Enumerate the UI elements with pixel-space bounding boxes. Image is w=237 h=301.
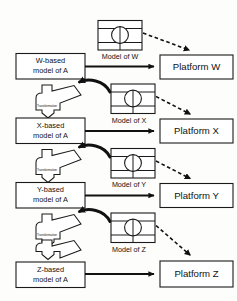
model-caption-y: Model of Y — [112, 180, 146, 189]
platform-box-y[interactable]: Platform Y — [160, 184, 233, 208]
source-model-box-z[interactable]: Z-based model of A — [16, 262, 85, 288]
source-box-y-line1: Y-based — [37, 185, 64, 194]
platform-label-y: Platform Y — [174, 190, 219, 201]
source-box-x-line1: X-based — [37, 121, 65, 130]
source-box-w-line1: W-based — [36, 56, 65, 65]
model-caption-z: Model of Z — [112, 245, 147, 254]
platform-box-z[interactable]: Platform Z — [160, 261, 233, 287]
source-model-box-w[interactable]: W-based model of A — [16, 54, 85, 80]
curved-mapping-arrow-x — [80, 145, 111, 157]
model-diagram-icon — [111, 84, 155, 114]
source-box-w-line2: model of A — [33, 66, 68, 75]
transformation-block-arrow-z[interactable] — [36, 240, 81, 260]
dashed-deployment-arrow-w — [143, 33, 189, 50]
model-diagram-icon — [111, 213, 155, 243]
transform-label-x: Transformation — [37, 168, 57, 172]
transformation-block-arrow-x[interactable]: Transformation — [36, 150, 81, 183]
transform-label-w: Transformation — [37, 104, 57, 108]
source-model-box-x[interactable]: X-based model of A — [16, 118, 85, 144]
source-box-z-line1: Z-based — [37, 265, 64, 274]
dashed-deployment-arrow-y — [156, 161, 190, 179]
curved-mapping-arrow-w — [80, 80, 111, 92]
dashed-deployment-arrow-z — [156, 226, 190, 256]
transform-label-y: Transformation — [37, 233, 57, 237]
transformation-diagram: Model of W W-based model of A Platform W — [0, 0, 237, 301]
platform-box-x[interactable]: Platform X — [160, 119, 233, 143]
model-caption-x: Model of X — [112, 116, 147, 125]
platform-box-w[interactable]: Platform W — [160, 55, 233, 79]
model-diagram-icon — [111, 149, 155, 179]
model-diagram-icon — [98, 21, 142, 51]
source-model-box-y[interactable]: Y-based model of A — [16, 183, 85, 209]
dashed-deployment-arrow-x — [156, 97, 190, 115]
transformation-block-arrow-w[interactable]: Transformation — [36, 85, 81, 118]
diagram-canvas: Model of W W-based model of A Platform W — [0, 0, 237, 301]
platform-label-x: Platform X — [174, 125, 219, 136]
source-box-z-line2: model of A — [33, 275, 68, 284]
model-caption-w: Model of W — [102, 52, 139, 61]
source-box-y-line2: model of A — [33, 195, 68, 204]
source-box-x-line2: model of A — [33, 131, 68, 140]
curved-mapping-arrow-y — [80, 210, 111, 222]
platform-label-w: Platform W — [173, 61, 221, 72]
platform-label-z: Platform Z — [174, 268, 218, 279]
